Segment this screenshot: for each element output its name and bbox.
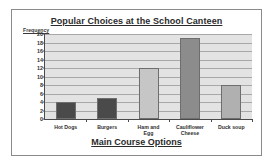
bar bbox=[221, 85, 241, 119]
x-category-label: Ham andEgg bbox=[126, 124, 172, 136]
x-category-label-line: Hot Dogs bbox=[43, 124, 89, 130]
bar bbox=[97, 98, 117, 119]
x-tick-mark bbox=[252, 119, 253, 122]
x-category-label: Burgers bbox=[84, 124, 130, 130]
x-category-label: Duck soup bbox=[208, 124, 254, 130]
x-tick-mark bbox=[86, 119, 87, 122]
chart-title: Popular Choices at the School Canteen bbox=[12, 16, 261, 26]
x-category-label-line: Cheese bbox=[167, 130, 213, 136]
x-category-label-line: Egg bbox=[126, 130, 172, 136]
x-category-label: Hot Dogs bbox=[43, 124, 89, 130]
plot-area: 02468101214161820 Hot DogsBurgersHam and… bbox=[44, 34, 252, 120]
bar bbox=[56, 102, 76, 119]
x-category-label-line: Burgers bbox=[84, 124, 130, 130]
chart-figure: Popular Choices at the School Canteen Fr… bbox=[11, 9, 262, 156]
x-tick-mark bbox=[169, 119, 170, 122]
x-tick-mark bbox=[211, 119, 212, 122]
x-tick-mark bbox=[128, 119, 129, 122]
x-category-label-line: Duck soup bbox=[208, 124, 254, 130]
bar bbox=[139, 68, 159, 119]
x-axis-title: Main Course Options bbox=[12, 137, 261, 147]
x-category-label: CauliflowerCheese bbox=[167, 124, 213, 136]
bar bbox=[180, 38, 200, 119]
bars-layer bbox=[45, 34, 252, 119]
